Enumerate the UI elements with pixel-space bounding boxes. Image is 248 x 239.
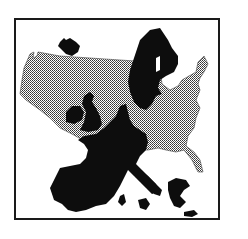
finland-gap (156, 56, 160, 72)
crete-shape (184, 210, 198, 217)
greece-shape (168, 178, 190, 208)
sardinia-shape (118, 194, 126, 206)
map-illustration (0, 0, 248, 239)
sicily-shape (138, 198, 150, 210)
iceland-shape (58, 38, 80, 56)
